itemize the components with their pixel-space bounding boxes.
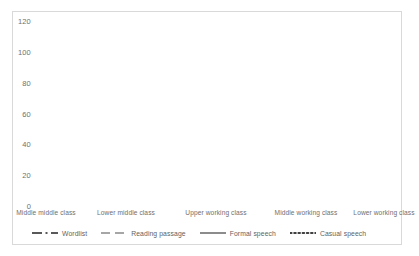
x-axis-tick-label: Middle working class [263, 209, 349, 216]
legend-label: Casual speech [320, 230, 366, 237]
legend-item-casual-speech[interactable]: Casual speech [290, 229, 366, 237]
y-axis-tick-label: 100 [5, 48, 31, 57]
legend-label: Reading passage [131, 230, 185, 237]
y-axis-tick-label: 120 [5, 17, 31, 26]
x-axis-tick-label: Lower working class [341, 209, 419, 216]
x-axis-tick-label: Middle middle class [3, 209, 89, 216]
y-axis-tick-label: 20 [5, 171, 31, 180]
chart-legend: WordlistReading passageFormal speechCasu… [32, 226, 404, 240]
legend-item-reading-passage[interactable]: Reading passage [101, 229, 185, 237]
legend-swatch-icon [32, 229, 58, 237]
x-axis-tick-label: Upper working class [173, 209, 259, 216]
legend-swatch-icon [200, 229, 226, 237]
legend-label: Wordlist [62, 230, 87, 237]
x-axis-tick-label: Lower middle class [83, 209, 169, 216]
legend-item-formal-speech[interactable]: Formal speech [200, 229, 276, 237]
legend-label: Formal speech [230, 230, 276, 237]
legend-swatch-icon [101, 229, 127, 237]
y-axis-tick-label: 60 [5, 110, 31, 119]
y-axis-tick-label: 80 [5, 79, 31, 88]
legend-swatch-icon [290, 229, 316, 237]
y-axis-tick-label: 40 [5, 140, 31, 149]
legend-item-wordlist[interactable]: Wordlist [32, 229, 87, 237]
